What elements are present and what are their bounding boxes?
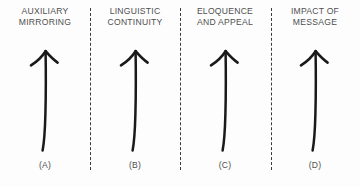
- panel-heading-a: AUXILIARY MIRRORING: [0, 6, 90, 29]
- panel-d: IMPACT OF MESSAGE (D): [270, 0, 360, 187]
- panel-heading-c: ELOQUENCE AND APPEAL: [180, 6, 270, 29]
- panel-heading-d: IMPACT OF MESSAGE: [270, 6, 360, 29]
- panel-arrow-d: [270, 48, 360, 156]
- up-arrow-icon: [208, 48, 242, 154]
- panel-b: LINGUISTIC CONTINUITY (B): [90, 0, 180, 187]
- up-arrow-icon: [298, 48, 332, 154]
- panel-heading-b: LINGUISTIC CONTINUITY: [90, 6, 180, 29]
- panel-divider-1: [90, 8, 91, 170]
- panel-label-b: (B): [90, 160, 180, 170]
- panel-arrow-a: [0, 48, 90, 156]
- panel-divider-2: [180, 8, 181, 170]
- up-arrow-icon: [28, 48, 62, 154]
- figure-canvas: AUXILIARY MIRRORING (A) LINGUISTIC CONTI…: [0, 0, 360, 187]
- panel-label-a: (A): [0, 160, 90, 170]
- panel-label-c: (C): [180, 160, 270, 170]
- panel-label-d: (D): [270, 160, 360, 170]
- panel-a: AUXILIARY MIRRORING (A): [0, 0, 90, 187]
- panel-arrow-c: [180, 48, 270, 156]
- up-arrow-icon: [118, 48, 152, 154]
- panel-divider-3: [271, 8, 272, 170]
- panel-c: ELOQUENCE AND APPEAL (C): [180, 0, 270, 187]
- panel-arrow-b: [90, 48, 180, 156]
